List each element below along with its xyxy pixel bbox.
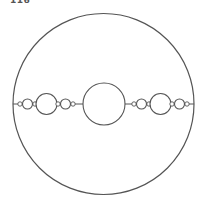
chain-circle-left-2-medium — [23, 99, 33, 109]
chain-circle-left-5-tiny — [56, 102, 60, 106]
chain-circle-right-2-medium — [137, 99, 147, 109]
chain-circle-central — [83, 83, 125, 125]
chain-circle-right-6-medium — [175, 99, 185, 109]
chain-circle-left-7-tiny — [71, 102, 75, 106]
chain-circle-right-4-large — [150, 94, 171, 115]
chain-circle-right-7-tiny — [185, 102, 189, 106]
chain-circle-left-6-medium — [61, 99, 71, 109]
chain-circle-right-5-tiny — [170, 102, 174, 106]
circle-chain-diagram — [0, 0, 205, 208]
chain-circle-right-1-tiny — [132, 102, 136, 106]
chain-circle-left-1-tiny — [18, 102, 22, 106]
circle-chain — [18, 83, 189, 125]
chain-circle-left-4-large — [36, 94, 57, 115]
